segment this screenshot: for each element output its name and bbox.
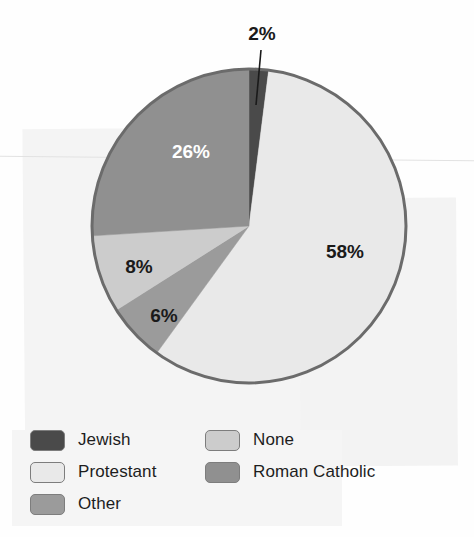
- legend-item-label: Roman Catholic: [253, 462, 375, 482]
- pie-chart-svg: 2%58%6%8%26%: [0, 0, 474, 410]
- legend-column-right: NoneRoman Catholic: [205, 424, 375, 488]
- legend-swatch-icon: [30, 462, 65, 483]
- legend-item-none[interactable]: None: [205, 424, 375, 456]
- legend-swatch-icon: [205, 430, 240, 451]
- legend-item-label: None: [253, 430, 294, 450]
- legend-column-left: JewishProtestantOther: [30, 424, 157, 520]
- legend-swatch-icon: [30, 494, 65, 515]
- pie-chart: 2%58%6%8%26%: [0, 0, 474, 410]
- legend-item-label: Jewish: [78, 430, 131, 450]
- pie-slice-roman-catholic[interactable]: [92, 69, 249, 236]
- legend-item-protestant[interactable]: Protestant: [30, 456, 157, 488]
- slice-value-label-protestant: 58%: [326, 241, 364, 262]
- slice-value-label-none: 8%: [125, 256, 153, 277]
- chart-page: 2%58%6%8%26% JewishProtestantOther NoneR…: [0, 0, 474, 537]
- slice-value-label-other: 6%: [150, 305, 178, 326]
- slice-value-label-roman-catholic: 26%: [172, 141, 210, 162]
- legend-item-label: Other: [78, 494, 121, 514]
- legend-item-jewish[interactable]: Jewish: [30, 424, 157, 456]
- legend-swatch-icon: [30, 430, 65, 451]
- legend-item-other[interactable]: Other: [30, 488, 157, 520]
- pie-slice-group: [92, 69, 406, 383]
- legend-item-label: Protestant: [78, 462, 157, 482]
- slice-value-label-jewish: 2%: [248, 23, 276, 44]
- legend-swatch-icon: [205, 462, 240, 483]
- legend-item-roman-catholic[interactable]: Roman Catholic: [205, 456, 375, 488]
